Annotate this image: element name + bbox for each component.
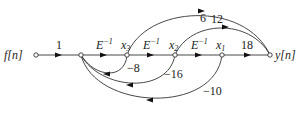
node-x2 xyxy=(173,53,177,57)
delay2-label: E−1 xyxy=(142,37,160,52)
x3-label: x3 xyxy=(120,38,130,53)
node-input xyxy=(34,53,38,57)
x2-fb-gain-label: −16 xyxy=(164,67,183,81)
x2-label: x2 xyxy=(168,38,178,53)
arrow-delay1 xyxy=(100,53,107,58)
x1-to-y-gain-label: 18 xyxy=(241,38,253,52)
signal-flow-graph: f[n] y[n] x3 x2 x1 1 E−1 E−1 E−1 18 6 12… xyxy=(0,0,301,113)
input-label: f[n] xyxy=(4,48,23,62)
node-output xyxy=(268,53,272,57)
x1-fb-gain-label: −10 xyxy=(203,84,222,98)
node-x3 xyxy=(125,53,129,57)
node-x1 xyxy=(220,53,224,57)
x1-label: x1 xyxy=(215,38,225,53)
node-sum xyxy=(79,53,83,57)
delay3-label: E−1 xyxy=(190,37,208,52)
arrow-delay3 xyxy=(195,53,202,58)
feedback-x1 xyxy=(81,55,222,98)
delay1-label: E−1 xyxy=(95,37,113,52)
x3-to-y-gain-label: 6 xyxy=(200,11,206,25)
x2-to-y-gain-label: 12 xyxy=(211,12,223,26)
arrow-delay2 xyxy=(147,53,154,58)
arrow-input-gain xyxy=(55,53,62,58)
arrow-x1-to-y xyxy=(244,53,251,58)
output-label: y[n] xyxy=(274,48,296,62)
x3-fb-gain-label: −8 xyxy=(127,61,140,75)
input-gain-label: 1 xyxy=(56,38,62,52)
